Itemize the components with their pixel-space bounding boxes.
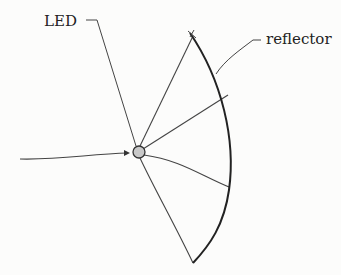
ray-2 bbox=[143, 95, 228, 149]
ray-1 bbox=[140, 36, 193, 146]
ray-4 bbox=[140, 158, 193, 263]
arrow-head bbox=[124, 150, 130, 156]
led-icon bbox=[133, 146, 145, 158]
led-label: LED bbox=[44, 14, 77, 29]
ray-3 bbox=[144, 155, 229, 187]
light-rays bbox=[140, 36, 229, 263]
reflector-arc bbox=[190, 33, 231, 263]
diagram-canvas: LED reflector bbox=[0, 0, 341, 275]
reflector-leader-line bbox=[216, 40, 261, 74]
reflector-label: reflector bbox=[266, 32, 332, 47]
input-wire bbox=[20, 153, 128, 159]
led-leader-line bbox=[86, 20, 136, 146]
